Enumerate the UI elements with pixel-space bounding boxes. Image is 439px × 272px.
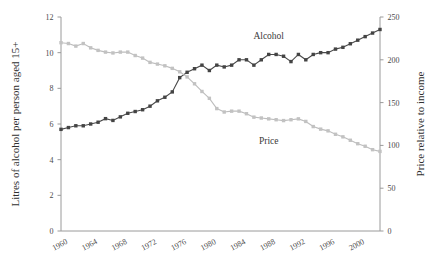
data-point-alcohol[interactable] xyxy=(185,71,188,74)
data-point-price[interactable] xyxy=(341,135,344,138)
data-point-alcohol[interactable] xyxy=(215,63,218,66)
y-tick-label-left: 4 xyxy=(50,156,54,165)
data-point-price[interactable] xyxy=(378,150,381,153)
data-point-alcohol[interactable] xyxy=(349,42,352,45)
data-point-price[interactable] xyxy=(334,133,337,136)
data-point-alcohol[interactable] xyxy=(334,47,337,50)
data-point-alcohol[interactable] xyxy=(126,112,129,115)
data-point-price[interactable] xyxy=(252,115,255,118)
data-point-price[interactable] xyxy=(237,109,240,112)
series-line-price[interactable] xyxy=(61,43,380,152)
y-tick-label-right: 200 xyxy=(388,56,400,65)
data-point-alcohol[interactable] xyxy=(119,115,122,118)
data-point-price[interactable] xyxy=(260,116,263,119)
data-point-alcohol[interactable] xyxy=(193,67,196,70)
series-label-price: Price xyxy=(259,136,279,146)
data-point-price[interactable] xyxy=(148,61,151,64)
data-point-alcohol[interactable] xyxy=(282,55,285,58)
data-point-alcohol[interactable] xyxy=(104,117,107,120)
data-point-price[interactable] xyxy=(74,44,77,47)
data-point-alcohol[interactable] xyxy=(59,128,62,131)
data-point-price[interactable] xyxy=(349,139,352,142)
y-axis-title-left: Litres of alcohol per person aged 15+ xyxy=(9,41,21,206)
data-point-alcohol[interactable] xyxy=(82,124,85,127)
data-point-alcohol[interactable] xyxy=(304,58,307,61)
data-point-price[interactable] xyxy=(200,90,203,93)
data-point-alcohol[interactable] xyxy=(111,119,114,122)
data-point-alcohol[interactable] xyxy=(89,122,92,125)
data-point-price[interactable] xyxy=(282,119,285,122)
data-point-alcohol[interactable] xyxy=(67,126,70,129)
data-point-alcohol[interactable] xyxy=(341,46,344,49)
data-point-alcohol[interactable] xyxy=(245,58,248,61)
data-point-alcohol[interactable] xyxy=(163,96,166,99)
data-point-price[interactable] xyxy=(312,125,315,128)
data-point-price[interactable] xyxy=(274,118,277,121)
data-point-alcohol[interactable] xyxy=(356,38,359,41)
data-point-alcohol[interactable] xyxy=(237,58,240,61)
series-line-alcohol[interactable] xyxy=(61,29,380,129)
data-point-alcohol[interactable] xyxy=(326,51,329,54)
data-point-price[interactable] xyxy=(111,51,114,54)
data-point-price[interactable] xyxy=(289,118,292,121)
data-point-price[interactable] xyxy=(119,50,122,53)
data-point-price[interactable] xyxy=(363,145,366,148)
data-point-price[interactable] xyxy=(356,142,359,145)
data-point-alcohol[interactable] xyxy=(133,110,136,113)
data-point-price[interactable] xyxy=(126,50,129,53)
data-point-price[interactable] xyxy=(304,120,307,123)
data-point-alcohol[interactable] xyxy=(312,53,315,56)
data-point-price[interactable] xyxy=(96,49,99,52)
data-point-alcohol[interactable] xyxy=(74,124,77,127)
data-point-price[interactable] xyxy=(163,64,166,67)
data-point-price[interactable] xyxy=(89,46,92,49)
x-tick-label: 1968 xyxy=(110,237,128,252)
data-point-price[interactable] xyxy=(104,50,107,53)
data-point-price[interactable] xyxy=(245,112,248,115)
data-point-alcohol[interactable] xyxy=(319,51,322,54)
data-point-price[interactable] xyxy=(82,42,85,45)
data-point-alcohol[interactable] xyxy=(141,108,144,111)
data-point-price[interactable] xyxy=(208,97,211,100)
data-point-price[interactable] xyxy=(156,62,159,65)
data-point-alcohol[interactable] xyxy=(378,28,381,31)
data-point-price[interactable] xyxy=(371,148,374,151)
data-point-alcohol[interactable] xyxy=(223,65,226,68)
data-point-alcohol[interactable] xyxy=(267,53,270,56)
data-point-price[interactable] xyxy=(215,107,218,110)
data-point-alcohol[interactable] xyxy=(208,69,211,72)
data-point-alcohol[interactable] xyxy=(297,53,300,56)
x-tick-label: 1992 xyxy=(288,237,306,252)
data-point-price[interactable] xyxy=(267,117,270,120)
data-point-alcohol[interactable] xyxy=(363,35,366,38)
x-tick-label: 2000 xyxy=(347,237,365,252)
y-tick-label-left: 12 xyxy=(46,13,54,22)
data-point-alcohol[interactable] xyxy=(96,121,99,124)
data-point-price[interactable] xyxy=(171,67,174,70)
x-tick-label: 1988 xyxy=(258,237,276,252)
data-point-price[interactable] xyxy=(59,41,62,44)
data-point-alcohol[interactable] xyxy=(200,63,203,66)
data-point-alcohol[interactable] xyxy=(171,90,174,93)
data-point-price[interactable] xyxy=(319,127,322,130)
data-point-price[interactable] xyxy=(297,117,300,120)
data-point-price[interactable] xyxy=(67,42,70,45)
data-point-alcohol[interactable] xyxy=(252,63,255,66)
data-point-price[interactable] xyxy=(178,70,181,73)
data-point-price[interactable] xyxy=(326,129,329,132)
data-point-alcohol[interactable] xyxy=(148,104,151,107)
chart-container: 0246810120501001502002501960196419681972… xyxy=(0,0,439,272)
data-point-alcohol[interactable] xyxy=(260,58,263,61)
data-point-alcohol[interactable] xyxy=(371,31,374,34)
data-point-price[interactable] xyxy=(141,56,144,59)
data-point-price[interactable] xyxy=(223,110,226,113)
data-point-price[interactable] xyxy=(193,82,196,85)
data-point-alcohol[interactable] xyxy=(289,60,292,63)
data-point-price[interactable] xyxy=(133,54,136,57)
data-point-price[interactable] xyxy=(230,109,233,112)
data-point-alcohol[interactable] xyxy=(274,53,277,56)
data-point-alcohol[interactable] xyxy=(156,99,159,102)
data-point-alcohol[interactable] xyxy=(178,76,181,79)
data-point-price[interactable] xyxy=(185,75,188,78)
data-point-alcohol[interactable] xyxy=(230,63,233,66)
